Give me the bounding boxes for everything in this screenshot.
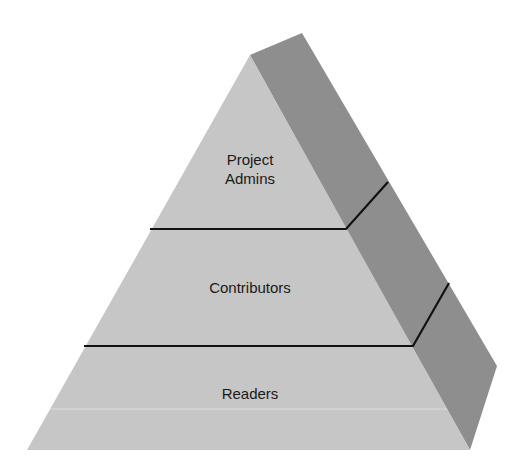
tier-label-project-admins-line1: Project bbox=[200, 150, 300, 169]
tier-label-project-admins-line2: Admins bbox=[200, 169, 300, 188]
tier-label-readers: Readers bbox=[200, 384, 300, 403]
tier-label-contributors: Contributors bbox=[190, 278, 310, 297]
tier-label-project-admins: Project Admins bbox=[200, 150, 300, 188]
